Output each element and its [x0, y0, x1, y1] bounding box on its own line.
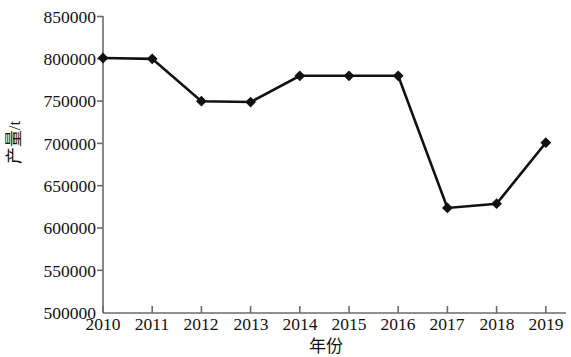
data-point-marker [245, 97, 256, 108]
x-tick-label: 2018 [480, 316, 515, 334]
x-axis-title: 年份 [0, 332, 571, 357]
x-tick-label: 2011 [135, 316, 169, 334]
series-line-production [103, 58, 546, 208]
x-tick-label: 2015 [332, 316, 367, 334]
x-tick-label: 2013 [234, 316, 269, 334]
data-point-marker [442, 203, 453, 214]
line-chart: 产量/t 850000 800000 750000 700000 650000 … [0, 0, 571, 357]
data-series [98, 53, 552, 214]
x-tick-label: 2019 [529, 316, 564, 334]
data-point-marker [294, 70, 305, 81]
x-tick-label: 2012 [184, 316, 219, 334]
x-tick-label: 2010 [86, 316, 121, 334]
data-point-marker [98, 53, 109, 64]
x-tick-label: 2016 [381, 316, 416, 334]
axes [97, 16, 566, 313]
data-point-marker [393, 70, 404, 81]
x-tick-label: 2014 [283, 316, 318, 334]
data-point-marker [344, 70, 355, 81]
x-tick-label: 2017 [430, 316, 465, 334]
plot-area [0, 0, 571, 357]
